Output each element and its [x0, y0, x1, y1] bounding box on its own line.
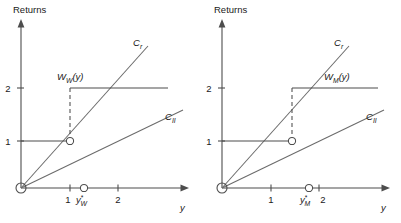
c-ii-sub-right: II	[373, 117, 377, 124]
c-r-sub-right: r	[341, 43, 344, 50]
curve-c-r-right	[222, 46, 349, 188]
x-axis-title-left: y	[179, 202, 186, 213]
c-r-sub-left: r	[140, 43, 143, 50]
step-arg-right: (y)	[339, 71, 350, 82]
y-axis-right	[219, 19, 226, 188]
y-tick-label-1-right: 1	[206, 136, 211, 147]
y-star-sub-left: W	[80, 200, 87, 207]
curve-c-ii-left	[21, 110, 183, 188]
kink-marker-right	[288, 137, 295, 144]
x-tick-label-1-right: 1	[268, 194, 273, 205]
y-tick-label-2-right: 2	[206, 83, 211, 94]
figure-root: Returns 1 2 1 2 y*W y Cr CII WW(y	[0, 0, 401, 223]
curve-label-c-r-left: Cr	[133, 37, 143, 50]
x-tick-label-2-right: 2	[320, 194, 325, 205]
step-label-left: WW(y)	[57, 71, 83, 84]
chart-svg-right: Returns 1 2 1 2 y*M y Cr CII WM(y	[201, 0, 401, 223]
c-ii-sub-left: II	[172, 117, 176, 124]
kink-marker-left	[66, 137, 73, 144]
chart-svg-left: Returns 1 2 1 2 y*W y Cr CII WW(y	[0, 0, 200, 223]
curve-label-c-r-right: Cr	[334, 37, 344, 50]
chart-panel-right: Returns 1 2 1 2 y*M y Cr CII WM(y	[201, 0, 401, 223]
y-axis-left	[18, 19, 25, 188]
y-tick-label-1-left: 1	[5, 136, 10, 147]
y-star-sub-right: M	[304, 200, 310, 207]
x-tick-label-1-left: 1	[65, 194, 70, 205]
x-tick-label-y-star-right: y*M	[299, 194, 310, 208]
y-star-axis-marker-left	[80, 184, 87, 191]
x-axis-title-right: y	[380, 202, 387, 213]
chart-panel-left: Returns 1 2 1 2 y*W y Cr CII WW(y	[0, 0, 200, 223]
y-tick-label-2-left: 2	[5, 83, 10, 94]
step-label-right: WM(y)	[324, 71, 350, 84]
y-axis-title-left: Returns	[13, 4, 47, 15]
step-arg-left: (y)	[72, 71, 83, 82]
curve-c-ii-right	[222, 110, 384, 188]
curve-label-c-ii-left: CII	[165, 111, 176, 124]
curve-label-c-ii-right: CII	[366, 111, 377, 124]
y-axis-title-right: Returns	[214, 4, 248, 15]
x-tick-label-y-star-left: y*W	[75, 194, 87, 208]
y-star-axis-marker-right	[305, 184, 312, 191]
x-tick-label-2-left: 2	[115, 194, 120, 205]
curve-c-r-left	[21, 46, 148, 188]
x-axis-left	[21, 185, 189, 192]
